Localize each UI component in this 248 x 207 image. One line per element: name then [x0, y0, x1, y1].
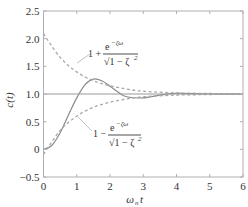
- x-tick-label: 0: [41, 180, 47, 192]
- lower-numerator: e: [110, 122, 115, 133]
- y-tick-label: 0.5: [26, 116, 40, 128]
- upper-prefix: 1 +: [88, 48, 102, 59]
- y-tick-label: 1.5: [26, 60, 40, 72]
- upper-exponent: −ζω: [111, 39, 123, 47]
- upper-numerator: e: [105, 41, 110, 52]
- plot-area: [44, 34, 244, 155]
- lower-envelope-annotation: 1 − e −ζω √1 − ζ 2: [78, 117, 142, 149]
- lower-envelope-curve: [44, 94, 244, 154]
- response-curve: [44, 79, 244, 149]
- y-axis-label: c(t): [3, 92, 16, 108]
- x-tick-label: 6: [240, 180, 246, 192]
- upper-envelope-curve: [44, 34, 244, 94]
- x-tick-label: 1: [74, 180, 80, 192]
- x-tick-label: 5: [207, 180, 213, 192]
- x-tick-label: 2: [107, 180, 113, 192]
- y-tick-label: 1.0: [26, 88, 40, 100]
- x-tick-label: 4: [174, 180, 180, 192]
- x-axis-label: ω n t: [126, 193, 144, 207]
- y-tick-label: 2.5: [26, 5, 40, 17]
- upper-denominator: √1 − ζ: [104, 56, 129, 68]
- lower-denominator: √1 − ζ: [109, 137, 134, 149]
- lower-exponent: −ζω: [116, 120, 128, 128]
- x-tick-label: 3: [141, 180, 147, 192]
- step-response-chart: 0123456−0.500.51.01.52.02.5 c(t) ω n t 1…: [0, 0, 248, 207]
- x-label-t: t: [140, 193, 144, 205]
- y-tick-label: −0.5: [20, 171, 40, 183]
- x-label-sub: n: [135, 199, 139, 207]
- y-tick-label: 2.0: [26, 33, 40, 45]
- lower-denominator-sq: 2: [138, 135, 142, 143]
- lower-leader-line: [78, 117, 92, 131]
- upper-denominator-sq: 2: [134, 54, 138, 62]
- lower-prefix: 1 −: [93, 128, 107, 139]
- x-label-omega: ω: [126, 193, 134, 205]
- upper-envelope-annotation: 1 + e −ζω √1 − ζ 2: [77, 39, 138, 68]
- y-tick-label: 0: [34, 143, 40, 155]
